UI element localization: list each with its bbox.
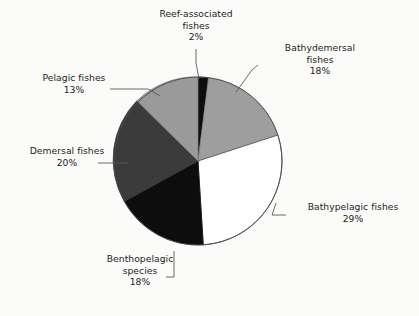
pie-label-reef-associated-fishes: Reef-associated fishes 2% (138, 8, 254, 43)
pie-label-bathydemersal-line1: Bathydemersal (262, 42, 378, 54)
pie-label-bathypelagic-percent: 29% (290, 213, 416, 225)
pie-label-bathydemersal-percent: 18% (262, 65, 378, 77)
pie-label-bathypelagic-fishes: Bathypelagic fishes 29% (290, 201, 416, 224)
pie-label-bathydemersal-line2: fishes (262, 54, 378, 66)
pie-label-bathydemersal-fishes: Bathydemersal fishes 18% (262, 42, 378, 77)
pie-label-benthopelagic-line1: Benthopelagic (82, 253, 198, 265)
pie-label-benthopelagic-percent: 18% (82, 276, 198, 288)
pie-label-reef-percent: 2% (138, 31, 254, 43)
pie-label-demersal-percent: 20% (6, 157, 128, 169)
leader-line-reef-associated (196, 49, 199, 79)
pie-label-reef-line1: Reef-associated (138, 8, 254, 20)
pie-label-demersal-fishes: Demersal fishes 20% (6, 145, 128, 168)
pie-label-benthopelagic-species: Benthopelagic species 18% (82, 253, 198, 288)
pie-label-reef-line2: fishes (138, 20, 254, 32)
pie-label-pelagic-percent: 13% (18, 84, 130, 96)
leader-line-bathypelagic (272, 203, 286, 215)
pie-label-benthopelagic-line2: species (82, 265, 198, 277)
pie-label-demersal-line1: Demersal fishes (6, 145, 128, 157)
pie-label-pelagic-fishes: Pelagic fishes 13% (18, 72, 130, 95)
pie-label-pelagic-line1: Pelagic fishes (18, 72, 130, 84)
pie-chart-figure: Reef-associated fishes 2% Bathydemersal … (0, 0, 419, 316)
pie-label-bathypelagic-line1: Bathypelagic fishes (290, 201, 416, 213)
leader-line-bathydemersal (236, 65, 258, 92)
